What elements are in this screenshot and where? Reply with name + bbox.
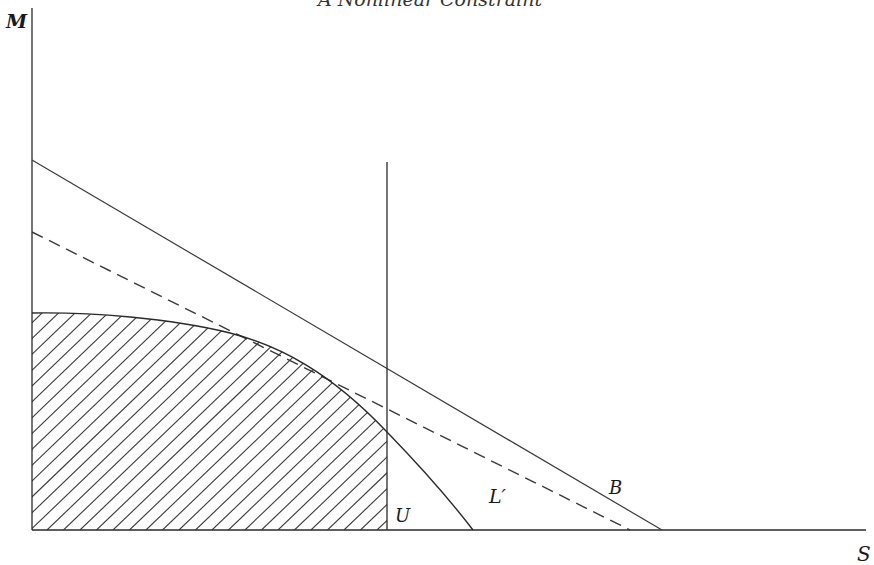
hatch-line	[146, 290, 396, 530]
hatch-line	[0, 290, 33, 530]
hatch-line	[80, 290, 330, 530]
hatch-line	[64, 290, 314, 530]
hatch-line	[31, 290, 281, 530]
nonlinear-constraint-diagram: A Nonlinear Constraint M S U L′ B	[0, 0, 874, 565]
hatch-line	[14, 290, 264, 530]
curve-label: L′	[488, 485, 507, 507]
hatch-line	[394, 290, 644, 530]
hatch-line	[0, 290, 50, 530]
hatch-line	[295, 290, 545, 530]
hatch-line	[311, 290, 561, 530]
hatch-line	[212, 290, 462, 530]
hatch-line	[47, 290, 297, 530]
diagram-title: A Nonlinear Constraint	[316, 0, 542, 10]
hatch-line	[0, 290, 198, 530]
hatch-line	[0, 290, 132, 530]
hatch-line	[196, 290, 446, 530]
hatch-line	[344, 290, 594, 530]
hatch-line	[229, 290, 479, 530]
hatch-line	[361, 290, 611, 530]
hatch-line	[0, 290, 83, 530]
hatch-line	[0, 290, 165, 530]
budget-line-label: B	[608, 477, 622, 498]
hatch-line	[0, 290, 248, 530]
y-axis-label: M	[5, 10, 28, 32]
hatch-line	[410, 290, 660, 530]
x-axis-label: S	[857, 542, 871, 565]
budget-line-b	[32, 160, 662, 530]
hatch-line	[130, 290, 380, 530]
hatch-line	[0, 290, 149, 530]
hatched-region	[0, 290, 660, 530]
hatch-line	[179, 290, 429, 530]
hatch-line	[113, 290, 363, 530]
hatch-line	[0, 290, 17, 530]
vertical-line-label: U	[395, 505, 411, 526]
hatch-line	[0, 290, 182, 530]
hatch-line	[0, 290, 116, 530]
